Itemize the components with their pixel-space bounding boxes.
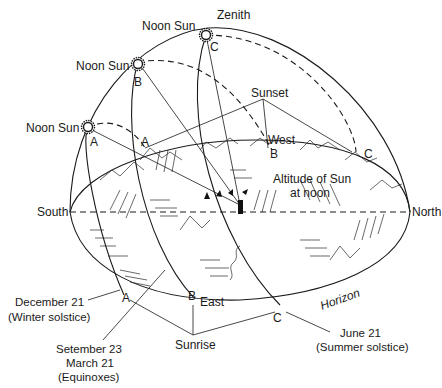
zenith-label: Zenith — [217, 8, 250, 22]
observer-marker — [238, 200, 243, 214]
june-leader — [286, 312, 330, 332]
equinox-leader — [103, 270, 165, 340]
point-c-sunset: C — [364, 147, 373, 161]
noon-sun-c-label: Noon Sun — [142, 19, 195, 33]
altitude-line-a — [88, 128, 240, 205]
june-label-line2: (Summer solstice) — [316, 341, 409, 353]
sun-path-b-west — [138, 60, 272, 150]
equinox-label-line1: Setember 23 — [56, 343, 122, 355]
sunset-leaders — [145, 99, 352, 152]
dec-label-line2: (Winter solstice) — [8, 311, 91, 323]
north-label: North — [412, 205, 441, 219]
point-b-sunset: B — [270, 147, 278, 161]
west-label: West — [268, 133, 296, 147]
altitude-label-line2: at noon — [290, 186, 330, 200]
south-label: South — [37, 205, 68, 219]
point-a-sunset: A — [141, 135, 149, 149]
sunrise-label: Sunrise — [175, 338, 216, 352]
point-b-sunrise: B — [188, 289, 196, 303]
altitude-label-line1: Altitude of Sun — [273, 172, 351, 186]
point-c-noon: C — [210, 40, 219, 54]
point-c-sunrise: C — [273, 311, 282, 325]
sun-path-diagram: Zenith Noon Sun Noon Sun Noon Sun C B A … — [0, 0, 442, 388]
altitude-line-b — [138, 62, 240, 205]
dec-label-line1: December 21 — [15, 296, 84, 308]
noon-sun-b-icon — [132, 58, 145, 71]
east-label: East — [200, 295, 225, 309]
altitude-line-c — [206, 35, 240, 205]
equinox-label-line3: (Equinoxes) — [58, 371, 120, 383]
equinox-label-line2: March 21 — [66, 357, 114, 369]
noon-sun-a-label: Noon Sun — [26, 121, 79, 135]
sunset-label: Sunset — [251, 86, 289, 100]
june-label-line1: June 21 — [340, 327, 381, 339]
dec-leader — [88, 290, 120, 300]
point-a-sunrise: A — [122, 291, 130, 305]
horizon-label: Horizon — [318, 285, 362, 312]
noon-sun-a-icon — [82, 121, 95, 134]
horizon-ellipse — [70, 140, 410, 300]
point-a-noon: A — [90, 135, 98, 149]
noon-sun-b-label: Noon Sun — [76, 59, 129, 73]
point-b-noon: B — [134, 75, 142, 89]
celestial-dome — [70, 28, 410, 212]
